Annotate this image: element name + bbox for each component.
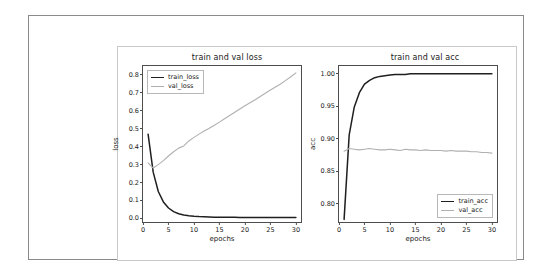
- panel-loss: train and val loss train_loss val_loss: [118, 47, 318, 260]
- legend-item-val-loss: val_loss: [151, 82, 199, 91]
- ytick-label: 0.0: [129, 214, 139, 222]
- ytick-label: 0.90: [321, 135, 335, 143]
- ytick-label: 0.85: [321, 167, 335, 175]
- xtick-label: 15: [215, 226, 223, 234]
- xtick-label: 0: [141, 226, 145, 234]
- legend-label: val_loss: [168, 82, 193, 91]
- axis-label-x-acc: epochs: [406, 235, 431, 243]
- ytick-label: 0.2: [129, 179, 139, 187]
- ytick-label: 0.5: [129, 125, 139, 133]
- axis-label-x-loss: epochs: [210, 235, 235, 243]
- xtick-label: 30: [488, 226, 496, 234]
- axes-loss: train_loss val_loss loss epochs 0.00.10.…: [142, 65, 302, 223]
- series-line-train_loss: [148, 134, 296, 217]
- line-swatch-icon: [151, 77, 164, 78]
- xtick-label: 10: [386, 226, 394, 234]
- ytick-label: 0.1: [129, 196, 139, 204]
- xtick-label: 30: [292, 226, 300, 234]
- ytick-label: 0.95: [321, 102, 335, 110]
- axis-label-y-acc: acc: [309, 138, 317, 150]
- panel-acc-title: train and val acc: [318, 53, 518, 62]
- panel-acc: train and val acc train_acc val_acc: [318, 47, 518, 260]
- xtick-label: 15: [411, 226, 419, 234]
- screenshot-root: train and val loss train_loss val_loss: [0, 0, 552, 273]
- xtick-label: 25: [462, 226, 470, 234]
- ytick-label: 1.00: [321, 70, 335, 78]
- legend-label: train_acc: [458, 197, 488, 206]
- legend-item-val-acc: val_acc: [441, 206, 488, 215]
- xtick-label: 20: [241, 226, 249, 234]
- ytick-label: 0.4: [129, 143, 139, 151]
- ytick-label: 0.8: [129, 71, 139, 79]
- line-swatch-icon: [441, 210, 454, 211]
- xtick-label: 5: [166, 226, 170, 234]
- ytick-label: 0.6: [129, 107, 139, 115]
- panel-loss-title: train and val loss: [118, 53, 318, 62]
- matplotlib-figure: train and val loss train_loss val_loss: [117, 46, 517, 261]
- line-swatch-icon: [441, 201, 454, 202]
- xtick-label: 5: [362, 226, 366, 234]
- line-swatch-icon: [151, 86, 164, 87]
- legend-item-train-loss: train_loss: [151, 73, 199, 82]
- xtick-label: 10: [190, 226, 198, 234]
- ytick-label: 0.80: [321, 200, 335, 208]
- series-line-val_acc: [344, 149, 492, 154]
- xtick-label: 20: [437, 226, 445, 234]
- xtick-label: 0: [337, 226, 341, 234]
- ytick-label: 0.7: [129, 89, 139, 97]
- axis-label-y-loss: loss: [112, 137, 120, 151]
- xtick-label: 25: [266, 226, 274, 234]
- legend-loss: train_loss val_loss: [147, 70, 204, 94]
- legend-label: val_acc: [458, 206, 482, 215]
- legend-label: train_loss: [168, 73, 199, 82]
- document-frame: train and val loss train_loss val_loss: [28, 15, 524, 260]
- legend-item-train-acc: train_acc: [441, 197, 488, 206]
- legend-acc: train_acc val_acc: [437, 194, 493, 218]
- ytick-label: 0.3: [129, 161, 139, 169]
- axes-acc: train_acc val_acc acc epochs 0.800.850.9…: [338, 65, 498, 223]
